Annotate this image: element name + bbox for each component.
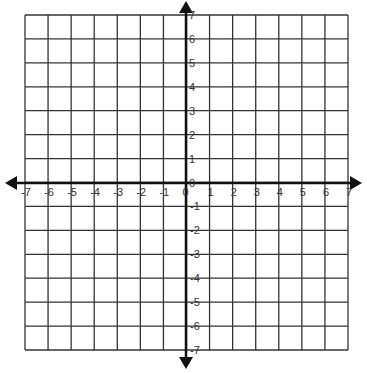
x-tick-label: -4 xyxy=(90,186,100,198)
y-tick-label: 0 xyxy=(189,177,195,189)
x-tick-label: 5 xyxy=(300,186,306,198)
y-tick-label: -3 xyxy=(190,248,200,260)
y-tick-label: -1 xyxy=(190,200,200,212)
y-tick-label: 7 xyxy=(189,9,195,21)
y-tick-label: -4 xyxy=(190,272,200,284)
x-tick-label: 4 xyxy=(277,186,283,198)
coordinate-plane: -7-6-5-4-3-2-101234567 76543210-1-2-3-4-… xyxy=(0,0,367,373)
x-tick-label: -2 xyxy=(136,186,146,198)
x-tick-label: -6 xyxy=(44,186,54,198)
x-tick-label: -3 xyxy=(113,186,123,198)
y-tick-label: -2 xyxy=(190,224,200,236)
x-tick-label: 2 xyxy=(231,186,237,198)
x-tick-label: 0 xyxy=(183,186,189,198)
x-tick-label: -7 xyxy=(21,186,31,198)
y-tick-label: 3 xyxy=(189,105,195,117)
y-tick-label: 2 xyxy=(189,129,195,141)
x-tick-label: -5 xyxy=(67,186,77,198)
y-tick-label: 4 xyxy=(189,81,195,93)
y-tick-label: 5 xyxy=(189,57,195,69)
x-tick-label: 7 xyxy=(346,186,352,198)
y-tick-label: -6 xyxy=(190,320,200,332)
x-tick-label: 3 xyxy=(254,186,260,198)
y-axis-down-arrow-icon xyxy=(179,357,193,369)
x-axis-tick-labels: -7-6-5-4-3-2-101234567 xyxy=(21,186,352,198)
y-tick-label: -5 xyxy=(190,296,200,308)
y-tick-label: 6 xyxy=(189,33,195,45)
x-axis-left-arrow-icon xyxy=(5,176,17,190)
y-tick-label: 1 xyxy=(189,153,195,165)
x-tick-label: 6 xyxy=(323,186,329,198)
x-tick-label: -1 xyxy=(159,186,169,198)
x-tick-label: 1 xyxy=(208,186,214,198)
y-tick-label: -7 xyxy=(190,344,200,356)
axes xyxy=(5,1,362,369)
